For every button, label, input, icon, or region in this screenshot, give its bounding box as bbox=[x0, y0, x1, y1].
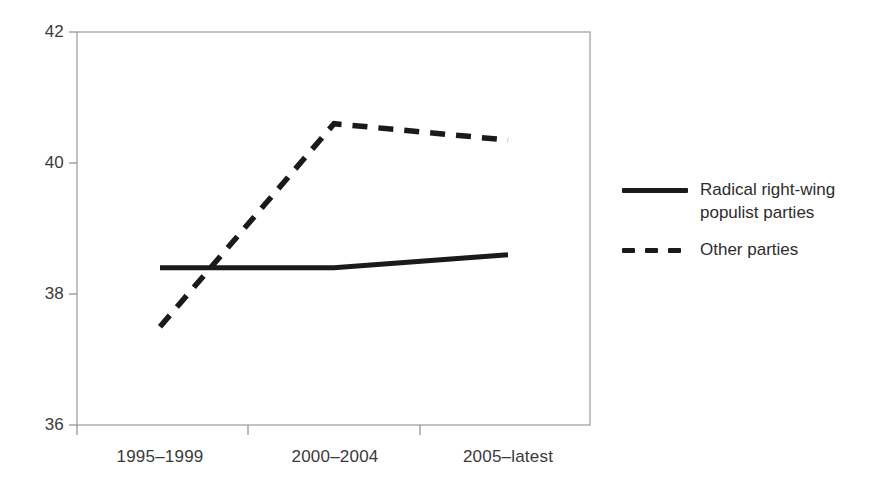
dashed-line-swatch-icon bbox=[620, 240, 690, 260]
legend-entry-radical-right-wing-populist-parties: Radical right-wing populist parties bbox=[620, 178, 870, 224]
chart-legend: Radical right-wing populist parties Othe… bbox=[620, 178, 870, 275]
legend-label-line-2: populist parties bbox=[700, 201, 835, 224]
series-lines bbox=[160, 124, 508, 327]
plot-border bbox=[77, 32, 590, 425]
legend-label-other-parties: Other parties bbox=[700, 238, 798, 261]
plot-frame bbox=[77, 32, 590, 425]
series-line-other-parties bbox=[160, 124, 508, 327]
line-chart: 42 40 38 36 1995–1999 2000–2004 2005–lat… bbox=[0, 0, 874, 497]
axis-ticks bbox=[69, 32, 420, 435]
legend-entry-other-parties: Other parties bbox=[620, 238, 870, 261]
legend-label-radical-right-wing-populist-parties: Radical right-wing populist parties bbox=[700, 178, 835, 224]
legend-label-line-1: Other parties bbox=[700, 238, 798, 261]
legend-label-line-1: Radical right-wing bbox=[700, 178, 835, 201]
solid-line-swatch-icon bbox=[620, 180, 690, 200]
